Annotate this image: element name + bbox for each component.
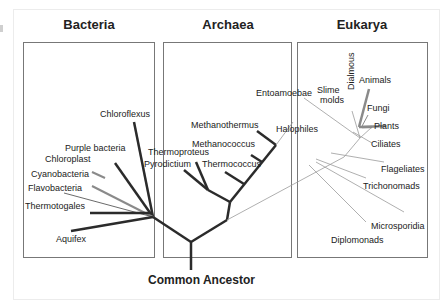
- taxon-thermoproteus: Thermoproteus: [148, 147, 209, 157]
- branch-ciliates: [353, 132, 372, 143]
- branch-chloroplast: [92, 172, 105, 178]
- taxon-trichonomads: Trichonomads: [363, 181, 420, 191]
- bacteria-stem: [153, 217, 191, 242]
- taxon-cyanobacteria: Cyanobacteria: [31, 169, 89, 179]
- taxon-thermotogales: Thermotogales: [25, 201, 85, 211]
- taxon-aquifex: Aquifex: [56, 234, 86, 244]
- taxon-diplomonads: Diplomonads: [331, 235, 384, 245]
- taxon-dialmous: Dialmous: [346, 52, 356, 90]
- taxon-flageliates: Flageliates: [381, 164, 425, 174]
- branch-thermococcus: [225, 172, 244, 184]
- taxon-chloroplast: Chloroplast: [45, 154, 91, 164]
- common-ancestor-label: Common Ancestor: [148, 273, 255, 287]
- taxon-molds: molds: [320, 95, 344, 105]
- taxon-plants: Plants: [374, 121, 399, 131]
- branch-diplomonads: [309, 165, 366, 222]
- taxon-chloroflexus: Chloroflexus: [100, 109, 150, 119]
- branch-aquifex: [71, 217, 153, 231]
- taxon-microsporidia: Microsporidia: [371, 221, 425, 231]
- taxon-fungi: Fungi: [367, 103, 390, 113]
- archaea-main: [230, 145, 276, 202]
- taxon-ciliates: Ciliates: [371, 139, 401, 149]
- taxon-thermococcus: Thermococcus: [202, 159, 261, 169]
- taxon-methanothermus: Methanothermus: [191, 120, 259, 130]
- taxon-slime: Slime: [317, 85, 340, 95]
- taxon-purple-bacteria: Purple bacteria: [65, 143, 126, 153]
- branch-trichonomads: [316, 159, 366, 178]
- branch-methanothermus: [257, 131, 276, 145]
- taxon-flavobacteria: Flavobacteria: [28, 183, 82, 193]
- taxon-halophiles: Halophiles: [276, 124, 318, 134]
- archaea-euk-stem: [191, 220, 227, 242]
- branch-flageliates: [331, 153, 384, 162]
- taxon-animals: Animals: [359, 75, 391, 85]
- taxon-entoamoebae: Entoamoebae: [256, 88, 312, 98]
- taxon-pyrodictium: Pyrodictium: [144, 159, 191, 169]
